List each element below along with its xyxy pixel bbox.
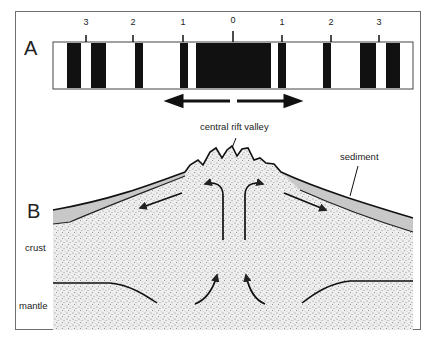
rift-valley-label: central rift valley: [200, 121, 269, 132]
ridge-cross-section: [53, 138, 413, 330]
crust-label: crust: [25, 242, 46, 253]
diagram-graphics: [0, 0, 432, 345]
spreading-arrows: [168, 96, 299, 106]
magnetic-stripe-bar: [53, 31, 413, 89]
sediment-label: sediment: [340, 151, 379, 162]
mantle-label: mantle: [19, 300, 48, 311]
panel-b-label: B: [27, 200, 40, 223]
